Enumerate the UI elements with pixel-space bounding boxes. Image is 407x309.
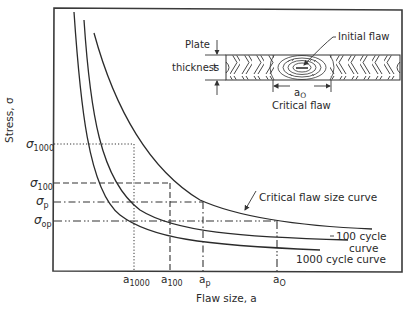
curve-100-cycle xyxy=(84,20,348,240)
y-axis-label: Stress, σ xyxy=(3,97,15,143)
x-tick-labels: a1000 a100 ap aO xyxy=(123,273,286,288)
thickness-symbol: t xyxy=(213,62,217,73)
curve-100-label-line1: 100 cycle xyxy=(336,230,387,242)
initial-flaw-label: Initial flaw xyxy=(338,31,389,42)
flaw-growth-diagram: Critical flaw size curve 100 cycle curve… xyxy=(0,0,407,309)
plate-label-line1: Plate xyxy=(185,39,210,50)
reference-lines xyxy=(54,144,277,271)
y-tick-sigma-p: σp xyxy=(36,194,49,210)
plate-inset: Plate thickness t Initial flaw xyxy=(172,31,400,111)
y-tick-sigma-100: σ100 xyxy=(30,176,53,192)
critical-flaw-label: Critical flaw xyxy=(272,100,331,111)
x-tick-a-p: ap xyxy=(199,273,211,288)
critical-label-leader xyxy=(245,191,256,210)
x-tick-a-1000: a1000 xyxy=(123,273,150,288)
y-tick-sigma-op: σop xyxy=(34,213,52,229)
y-tick-labels: σ1000 σ100 σp σop xyxy=(26,137,54,229)
critical-flaw-dimension: aO xyxy=(294,87,306,100)
x-axis-label: Flaw size, a xyxy=(196,292,257,304)
x-tick-a-o: aO xyxy=(273,273,286,288)
x-tick-a-100: a100 xyxy=(161,273,183,288)
critical-curve-label: Critical flaw size curve xyxy=(259,191,377,203)
y-tick-sigma-1000: σ1000 xyxy=(26,137,54,153)
curve-1000-label: 1000 cycle curve xyxy=(296,253,386,265)
